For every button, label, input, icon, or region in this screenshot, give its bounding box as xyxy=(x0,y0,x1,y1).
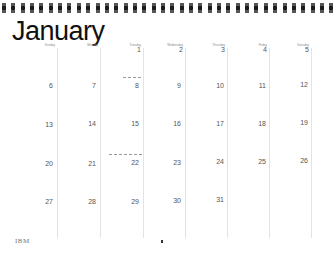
day-cell[interactable]: 20 xyxy=(23,160,53,167)
day-cell[interactable]: 31 xyxy=(194,196,224,203)
hole-mark xyxy=(161,240,163,243)
day-cell[interactable]: 8 xyxy=(109,82,139,89)
day-cell[interactable]: 26 xyxy=(278,157,308,164)
day-cell[interactable]: 30 xyxy=(151,197,181,204)
day-cell[interactable]: 10 xyxy=(194,82,224,89)
day-cell[interactable]: 2 xyxy=(153,46,183,53)
day-cell[interactable]: 9 xyxy=(151,82,181,89)
day-cell[interactable]: 22 xyxy=(109,159,139,166)
day-cell[interactable]: 17 xyxy=(194,120,224,127)
day-cell[interactable]: 6 xyxy=(23,82,53,89)
day-header-sunday: Sunday xyxy=(19,43,55,47)
day-cell[interactable]: 14 xyxy=(66,120,96,127)
column-divider xyxy=(143,48,144,238)
note-mark xyxy=(123,77,141,78)
ibm-logo: IBM xyxy=(15,237,30,245)
day-cell[interactable]: 28 xyxy=(66,198,96,205)
day-cell[interactable]: 11 xyxy=(236,82,266,89)
day-cell[interactable]: 16 xyxy=(151,120,181,127)
day-cell[interactable]: 21 xyxy=(66,160,96,167)
day-cell[interactable]: 7 xyxy=(66,82,96,89)
column-divider xyxy=(311,48,312,238)
day-cell[interactable]: 24 xyxy=(194,158,224,165)
calendar-grid: Sunday Monday Tuesday Wednesday Thursday… xyxy=(15,0,333,255)
column-divider xyxy=(185,48,186,238)
day-cell[interactable]: 5 xyxy=(279,46,309,53)
column-divider xyxy=(57,48,58,238)
day-cell[interactable]: 13 xyxy=(23,121,53,128)
day-cell[interactable]: 29 xyxy=(109,198,139,205)
day-cell[interactable]: 3 xyxy=(195,46,225,53)
day-cell[interactable]: 23 xyxy=(151,159,181,166)
column-divider xyxy=(100,48,101,238)
day-cell[interactable]: 27 xyxy=(23,198,53,205)
day-cell[interactable]: 1 xyxy=(111,46,141,53)
note-mark xyxy=(109,154,142,155)
day-cell[interactable]: 4 xyxy=(237,46,267,53)
column-divider xyxy=(227,48,228,238)
column-divider xyxy=(269,48,270,238)
spiral-ring-icon xyxy=(2,3,6,13)
day-header-monday: Monday xyxy=(62,43,98,47)
day-cell[interactable]: 18 xyxy=(236,120,266,127)
day-cell[interactable]: 12 xyxy=(278,81,308,88)
day-cell[interactable]: 25 xyxy=(236,158,266,165)
day-cell[interactable]: 15 xyxy=(109,120,139,127)
day-cell[interactable]: 19 xyxy=(278,119,308,126)
